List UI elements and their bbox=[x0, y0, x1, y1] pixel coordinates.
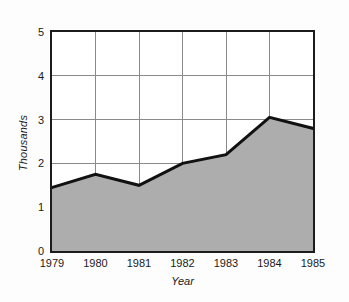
y-tick-label: 4 bbox=[30, 70, 44, 81]
y-tick-label: 0 bbox=[30, 246, 44, 257]
x-axis-title: Year bbox=[50, 275, 315, 287]
x-tick-label: 1980 bbox=[76, 256, 116, 270]
y-tick-label: 2 bbox=[30, 158, 44, 169]
y-tick-label: 3 bbox=[30, 114, 44, 125]
x-tick-label: 1979 bbox=[32, 256, 72, 270]
area-chart-figure: Thousands 012345 19791980198119821983198… bbox=[0, 0, 349, 302]
x-axis-tick-labels: 1979198019811982198319841985 bbox=[0, 256, 349, 274]
x-tick-label: 1984 bbox=[250, 256, 290, 270]
x-tick-label: 1981 bbox=[119, 256, 159, 270]
x-tick-label: 1983 bbox=[206, 256, 246, 270]
plot-area bbox=[50, 30, 315, 253]
x-tick-label: 1982 bbox=[163, 256, 203, 270]
y-tick-label: 5 bbox=[30, 27, 44, 38]
x-tick-label: 1985 bbox=[293, 256, 333, 270]
y-tick-label: 1 bbox=[30, 202, 44, 213]
plot-svg bbox=[52, 32, 313, 251]
